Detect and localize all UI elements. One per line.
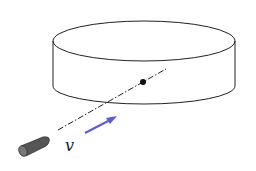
diagram-canvas: v [0,0,256,171]
velocity-label: v [65,136,74,155]
center-point [140,79,146,85]
diagram-svg [0,0,256,171]
velocity-arrow [85,116,117,133]
cylinder-disk [53,21,235,104]
bullet [17,137,49,158]
